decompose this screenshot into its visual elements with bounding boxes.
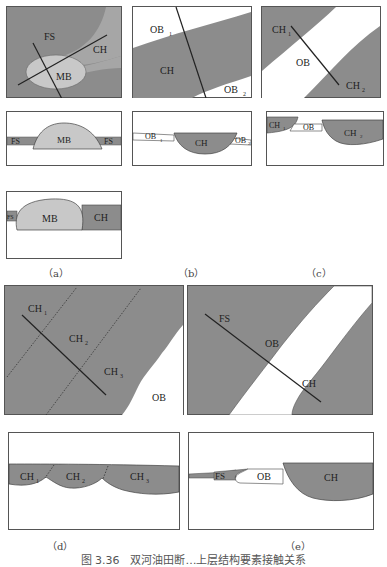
label-ch1-sub: 1 xyxy=(288,31,291,37)
label-mb: MB xyxy=(57,135,71,145)
label-ob: OB xyxy=(303,123,314,132)
panel-a-section-1: FS MB FS xyxy=(6,111,122,166)
subfigure-label-b: （b） xyxy=(178,265,204,280)
label-fs: FS xyxy=(219,313,230,324)
label-ob: OB xyxy=(265,338,279,349)
label-ch2-sub: 2 xyxy=(362,87,365,93)
label-fs: FS xyxy=(215,471,225,481)
label-ch: CH xyxy=(93,44,107,55)
label-ch1: CH xyxy=(28,303,42,314)
label-ch1: CH xyxy=(272,24,286,35)
label-mb: MB xyxy=(56,71,72,82)
label-ch2: CH xyxy=(346,80,360,91)
panel-e-section: FS OB CH xyxy=(188,432,374,530)
label-fs: FS xyxy=(7,214,14,220)
label-ch1-sub: 1 xyxy=(36,478,39,484)
panel-c-section: CH 1 OB CH 2 xyxy=(266,111,384,166)
label-ob1-sub: 1 xyxy=(169,31,172,37)
label-ob2: OB xyxy=(224,84,238,95)
label-fs-right: FS xyxy=(104,137,113,146)
label-ch1-sub: 1 xyxy=(44,310,47,316)
label-ch1: CH xyxy=(20,471,34,482)
label-fs-left: FS xyxy=(11,137,20,146)
label-ob: OB xyxy=(152,392,166,403)
label-ch: CH xyxy=(302,378,316,389)
panel-b-section: OB 1 CH OB 2 xyxy=(132,111,252,166)
label-ch3-sub: 3 xyxy=(146,478,149,484)
label-mb: MB xyxy=(42,213,58,224)
label-ob1: OB xyxy=(145,132,156,141)
label-ch2: CH xyxy=(69,333,83,344)
label-ch2-sub: 2 xyxy=(82,478,85,484)
label-ch3: CH xyxy=(130,471,144,482)
label-ch: CH xyxy=(160,65,174,76)
label-ch: CH xyxy=(324,472,338,483)
label-ob: OB xyxy=(296,57,310,68)
panel-c-plan: CH 1 OB CH 2 xyxy=(261,6,381,98)
panel-d-plan: CH 1 CH 2 CH 3 OB xyxy=(4,285,184,415)
label-fs: FS xyxy=(44,31,55,42)
label-ch2: CH xyxy=(66,471,80,482)
panel-e-plan: FS OB CH xyxy=(187,285,373,415)
subfigure-label-c: （c） xyxy=(306,265,332,280)
label-ob1: OB xyxy=(150,24,164,35)
panel-a-section-2: FS MB CH xyxy=(6,191,122,259)
panel-d-section: CH 1 CH 2 CH 3 xyxy=(8,432,180,530)
label-ob2: OB xyxy=(235,136,246,145)
panel-b-plan: OB 1 CH OB 2 xyxy=(132,6,252,98)
label-ob: OB xyxy=(257,471,271,482)
label-ch3-sub: 3 xyxy=(120,373,123,379)
label-ch1: CH xyxy=(269,121,280,130)
label-ch2: CH xyxy=(344,128,357,138)
label-ch2-sub: 2 xyxy=(85,340,88,346)
figure-caption: 图 3.36 双河油田断…上层结构要素接触关系 xyxy=(0,551,387,567)
label-ob2-sub: 2 xyxy=(243,91,246,97)
label-ch3: CH xyxy=(104,366,118,377)
subfigure-label-a: （a） xyxy=(43,265,69,280)
label-ch: CH xyxy=(94,212,108,223)
label-ch: CH xyxy=(195,138,208,148)
panel-a-plan: FS CH MB xyxy=(6,6,122,98)
